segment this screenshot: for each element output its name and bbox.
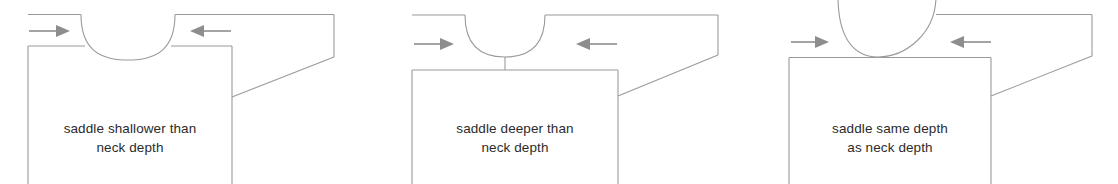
sleeve-diagonal: [991, 56, 1092, 96]
saddle-arc: [81, 15, 175, 61]
panel-saddle-deeper: saddle deeper than neck depth: [373, 0, 746, 184]
caption-line-1: saddle shallower than: [64, 121, 197, 136]
caption-line-2: neck depth: [481, 140, 548, 155]
flow-arrow-right-head: [190, 25, 204, 37]
panel-saddle-shallower: saddle shallower than neck depth: [0, 0, 373, 184]
flow-arrow-left-head: [440, 38, 454, 50]
flow-arrow-right-head: [950, 36, 964, 48]
caption-line-1: saddle deeper than: [456, 121, 573, 136]
caption-line-1: saddle same depth: [832, 121, 948, 136]
sleeve-diagonal: [618, 55, 718, 96]
flow-arrow-right-head: [576, 38, 590, 50]
flow-arrow-left-head: [815, 36, 829, 48]
saddle-depth-figure: saddle shallower than neck depth saddle …: [0, 0, 1118, 184]
saddle-arc: [838, 0, 936, 57]
panel-saddle-same-depth: saddle same depth as neck depth: [745, 0, 1118, 184]
flow-arrow-left-head: [56, 25, 70, 37]
caption-line-2: neck depth: [96, 140, 163, 155]
saddle-arc: [465, 15, 545, 57]
caption-line-2: as neck depth: [847, 140, 932, 155]
sleeve-diagonal: [232, 57, 334, 97]
